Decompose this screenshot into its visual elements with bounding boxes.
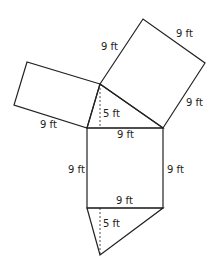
upper-right-left-label: 9 ft — [101, 41, 118, 53]
square-bottom-label: 9 ft — [116, 195, 133, 207]
upper-right-right-label: 9 ft — [186, 97, 203, 109]
square-top-label: 9 ft — [117, 129, 134, 141]
square-right-label: 9 ft — [167, 164, 184, 176]
square-left-label: 9 ft — [68, 164, 85, 176]
prism-net-diagram: 9 ft 9 ft 9 ft 9 ft 5 ft 9 ft 9 ft 9 ft … — [0, 0, 216, 268]
top-triangle-height-label: 5 ft — [103, 108, 120, 120]
top-triangle — [87, 84, 163, 128]
upper-left-rectangle — [14, 62, 100, 128]
upper-left-bottom-label: 9 ft — [40, 119, 57, 131]
bottom-triangle — [87, 208, 163, 255]
bottom-triangle-height-label: 5 ft — [103, 218, 120, 230]
upper-right-top-label: 9 ft — [176, 28, 193, 40]
